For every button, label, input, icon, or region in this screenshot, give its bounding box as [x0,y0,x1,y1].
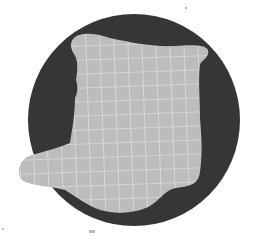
speck-mark [89,230,95,233]
speck-dot [185,7,187,9]
speck-dot [2,228,4,230]
diagram-canvas [0,0,253,236]
